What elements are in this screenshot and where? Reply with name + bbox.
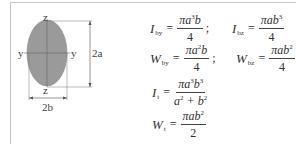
denominator: 4 bbox=[187, 29, 193, 43]
subscript: bz bbox=[237, 29, 244, 37]
ellipse-cross-section-diagram: y y z z 2a 2b bbox=[0, 0, 120, 144]
formula-I-bz: Ibz = πab3 4 bbox=[232, 14, 284, 43]
fraction: πab2 4 bbox=[269, 44, 295, 73]
denominator: a2 + b2 bbox=[174, 93, 207, 107]
equals-sign: = bbox=[170, 117, 177, 132]
y-label-right: y bbox=[71, 47, 77, 59]
formula-W-by: Wby = πa2b 4 ; bbox=[150, 44, 215, 73]
subscript: t bbox=[157, 93, 159, 101]
symbol: W bbox=[236, 51, 247, 67]
z-label-top: z bbox=[43, 11, 48, 23]
numerator: πab2 bbox=[269, 44, 295, 59]
symbol: I bbox=[152, 85, 156, 101]
subscript: bz bbox=[248, 59, 255, 67]
symbol: I bbox=[232, 21, 236, 37]
height-dimension-label: 2a bbox=[92, 47, 103, 59]
symbol: I bbox=[150, 21, 154, 37]
equals-sign: = bbox=[173, 51, 180, 66]
fraction: πa3b3 a2 + b2 bbox=[174, 78, 207, 107]
equals-sign: = bbox=[258, 51, 265, 66]
formula-I-by: Iby = πa3b 4 ; bbox=[150, 14, 209, 43]
separator: ; bbox=[212, 51, 215, 66]
subscript: by bbox=[162, 59, 169, 67]
separator: ; bbox=[206, 21, 209, 36]
formula-I-t: It = πa3b3 a2 + b2 bbox=[152, 78, 207, 107]
arrow-left-icon bbox=[29, 97, 33, 100]
formula-W-t: Wt = πab2 2 bbox=[152, 110, 206, 139]
subscript: t bbox=[164, 125, 166, 133]
equals-sign: = bbox=[166, 21, 173, 36]
arrow-up-icon bbox=[89, 21, 92, 25]
numerator: πa3b bbox=[177, 14, 203, 29]
arrow-down-icon bbox=[89, 83, 92, 87]
fraction: πa2b 4 bbox=[184, 44, 210, 73]
arrow-right-icon bbox=[63, 97, 67, 100]
fraction: πab3 4 bbox=[259, 14, 285, 43]
fraction: πa3b 4 bbox=[177, 14, 203, 43]
denominator: 4 bbox=[193, 59, 199, 73]
numerator: πab2 bbox=[181, 110, 207, 125]
denominator: 2 bbox=[190, 125, 196, 139]
numerator: πa3b3 bbox=[176, 78, 205, 93]
numerator: πa2b bbox=[184, 44, 210, 59]
symbol: W bbox=[150, 51, 161, 67]
z-label-bottom: z bbox=[43, 84, 48, 96]
fraction: πab2 2 bbox=[181, 110, 207, 139]
subscript: by bbox=[155, 29, 162, 37]
denominator: 4 bbox=[279, 59, 285, 73]
denominator: 4 bbox=[268, 29, 274, 43]
y-label-left: y bbox=[18, 47, 24, 59]
numerator: πab3 bbox=[259, 14, 285, 29]
symbol: W bbox=[152, 117, 163, 133]
equals-sign: = bbox=[163, 85, 170, 100]
width-dimension-label: 2b bbox=[42, 101, 54, 113]
equals-sign: = bbox=[248, 21, 255, 36]
formula-W-bz: Wbz = πab2 4 bbox=[236, 44, 295, 73]
